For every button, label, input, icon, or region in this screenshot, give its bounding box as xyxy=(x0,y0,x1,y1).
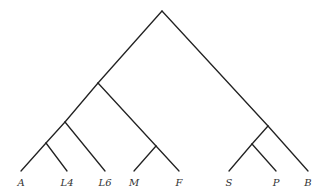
tree-edges xyxy=(21,11,308,171)
leaf-label-f: F xyxy=(176,177,183,188)
leaf-label-l4: L4 xyxy=(60,177,73,188)
edge-n5-B xyxy=(268,126,308,171)
leaf-label-b: B xyxy=(304,177,311,188)
leaf-label-p: P xyxy=(273,177,280,188)
edge-n1-n4 xyxy=(98,83,156,146)
leaf-label-a: A xyxy=(17,177,24,188)
edge-n4-M xyxy=(134,146,156,171)
edge-n6-P xyxy=(252,144,276,171)
tree-diagram xyxy=(0,0,324,193)
edge-n3-A xyxy=(21,143,46,171)
edge-root-n5 xyxy=(162,11,268,126)
edge-n2-n3 xyxy=(46,122,65,143)
edge-n4-F xyxy=(156,146,179,171)
edge-n2-L6 xyxy=(65,122,105,171)
edge-root-n1 xyxy=(98,11,162,83)
edge-n1-n2 xyxy=(65,83,98,122)
edge-n3-L4 xyxy=(46,143,67,171)
leaf-label-s: S xyxy=(226,177,233,188)
leaf-label-l6: L6 xyxy=(98,177,111,188)
edge-n5-n6 xyxy=(252,126,268,144)
leaf-label-m: M xyxy=(129,177,139,188)
edge-n6-S xyxy=(229,144,252,171)
